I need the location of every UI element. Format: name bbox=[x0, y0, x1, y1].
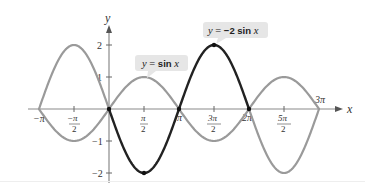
data-point bbox=[247, 107, 251, 111]
y-axis-label: y bbox=[104, 11, 111, 25]
sine-graph: x y 2 1 −1 −2 −π −π 2 π 2 π 3π 2 2π bbox=[0, 0, 365, 196]
y-tick-neg2: −2 bbox=[92, 168, 103, 179]
data-point bbox=[212, 43, 216, 47]
x-axis-label: x bbox=[346, 102, 353, 116]
svg-text:2: 2 bbox=[281, 124, 286, 134]
svg-text:3π: 3π bbox=[207, 113, 218, 123]
svg-text:y = sin x: y = sin x bbox=[141, 58, 179, 69]
svg-text:π: π bbox=[141, 113, 146, 123]
svg-text:y = −2 sin x: y = −2 sin x bbox=[207, 25, 259, 36]
data-point bbox=[177, 107, 181, 111]
data-point bbox=[142, 171, 146, 175]
y-tick-neg1: −1 bbox=[92, 136, 103, 147]
svg-text:2: 2 bbox=[141, 124, 146, 134]
y-axis-arrow-icon bbox=[106, 25, 112, 33]
svg-text:−π: −π bbox=[67, 113, 78, 123]
bottom-divider bbox=[0, 181, 365, 182]
curve-neg2sin-left bbox=[39, 45, 109, 109]
callout-sin: y = sin x bbox=[135, 55, 188, 78]
x-tick-pi-half: π 2 bbox=[140, 113, 148, 134]
callout-neg2sin: y = −2 sin x bbox=[203, 22, 268, 44]
axes: x y bbox=[28, 11, 353, 183]
y-tick-2: 2 bbox=[97, 40, 102, 51]
svg-text:2: 2 bbox=[72, 124, 77, 134]
svg-text:5π: 5π bbox=[278, 113, 288, 123]
data-point bbox=[107, 107, 111, 111]
x-tick-three-pi-half: 3π 2 bbox=[207, 113, 221, 134]
x-tick-neg-pi-half: −π 2 bbox=[67, 113, 80, 134]
svg-text:2: 2 bbox=[211, 124, 216, 134]
x-axis-arrow-icon bbox=[335, 106, 343, 112]
x-tick-five-pi-half: 5π 2 bbox=[277, 113, 291, 134]
